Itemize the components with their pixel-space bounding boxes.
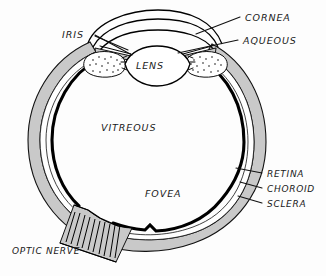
label-optic-nerve: OPTIC NERVE — [12, 246, 80, 256]
label-iris: IRIS — [62, 29, 84, 40]
label-lens: LENS — [136, 60, 164, 71]
label-aqueous: AQUEOUS — [242, 35, 297, 46]
eye-diagram-figure: CORNEA AQUEOUS IRIS LENS VITREOUS FOVEA … — [0, 0, 326, 276]
ciliary-body-left — [84, 52, 126, 78]
label-retina: RETINA — [267, 169, 304, 179]
ciliary-body-right — [186, 52, 228, 78]
label-vitreous: VITREOUS — [101, 122, 156, 133]
label-cornea: CORNEA — [245, 12, 291, 23]
eye-cross-section-illustration: CORNEA AQUEOUS IRIS LENS VITREOUS FOVEA … — [0, 0, 326, 276]
label-fovea: FOVEA — [145, 188, 181, 199]
label-choroid: CHOROID — [267, 184, 315, 194]
label-sclera: SCLERA — [267, 199, 306, 209]
